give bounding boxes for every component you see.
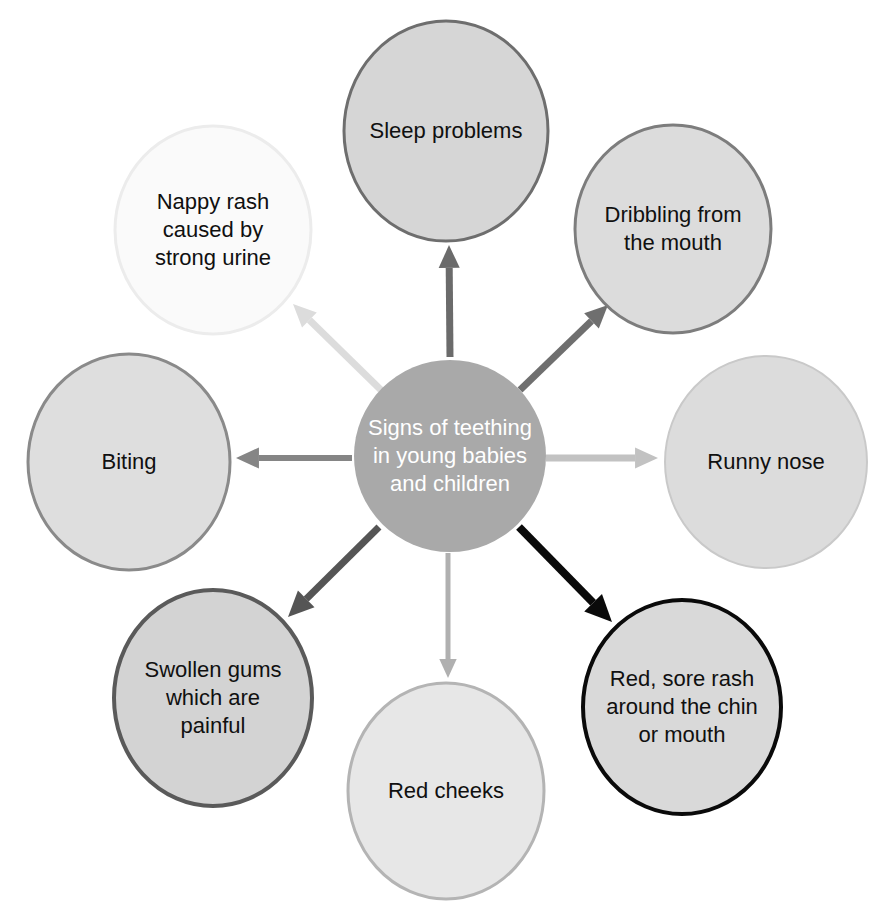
arrow-to-sleep-problems-head <box>439 245 460 268</box>
arrow-to-runny-nose <box>546 447 658 468</box>
node-dribbling-label: Dribbling from the mouth <box>605 201 742 257</box>
node-red-cheeks[interactable]: Red cheeks <box>348 683 544 899</box>
node-red-sore-rash[interactable]: Red, sore rash around the chin or mouth <box>583 600 781 814</box>
node-nappy-rash[interactable]: Nappy rash caused by strong urine <box>115 126 311 334</box>
arrow-to-biting-head <box>236 447 259 468</box>
node-nappy-rash-label: Nappy rash caused by strong urine <box>155 188 271 272</box>
node-red-sore-rash-label: Red, sore rash around the chin or mouth <box>606 665 758 749</box>
node-sleep-problems-label: Sleep problems <box>370 117 523 145</box>
node-red-cheeks-label: Red cheeks <box>388 777 504 805</box>
node-swollen-gums-label: Swollen gums which are painful <box>145 656 282 740</box>
arrow-to-sleep-problems-shaft <box>449 268 450 357</box>
node-runny-nose[interactable]: Runny nose <box>665 356 867 568</box>
node-runny-nose-label: Runny nose <box>707 448 824 476</box>
arrow-to-red-cheeks-head <box>439 659 456 678</box>
arrow-to-runny-nose-head <box>635 447 658 468</box>
node-biting-label: Biting <box>101 448 156 476</box>
center-node[interactable]: Signs of teething in young babies and ch… <box>354 360 546 552</box>
node-biting[interactable]: Biting <box>28 354 230 570</box>
arrow-to-sleep-problems <box>439 245 460 357</box>
node-dribbling[interactable]: Dribbling from the mouth <box>575 125 771 333</box>
node-swollen-gums[interactable]: Swollen gums which are painful <box>114 590 312 806</box>
center-node-label: Signs of teething in young babies and ch… <box>368 414 532 498</box>
arrow-to-red-cheeks <box>439 553 456 678</box>
arrow-to-biting <box>236 447 352 468</box>
node-sleep-problems[interactable]: Sleep problems <box>344 21 548 241</box>
teething-signs-diagram: Sleep problemsDribbling from the mouthRu… <box>0 0 891 920</box>
